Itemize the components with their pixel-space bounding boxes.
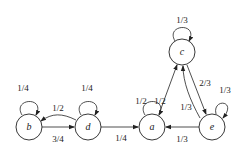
edge-d-b (41, 115, 76, 121)
edge-d-d (79, 101, 97, 115)
edge-b-b (20, 101, 38, 115)
label-d-b: 1/2 (52, 103, 64, 113)
node-d: d (75, 114, 101, 140)
label-d-a: 1/4 (115, 133, 127, 143)
label-a-c: 1/2 (154, 96, 166, 106)
label-b-d: 3/4 (52, 134, 64, 144)
node-e: e (199, 114, 225, 140)
edge-a-c (159, 65, 177, 114)
label-e-a: 1/3 (176, 134, 188, 144)
svg-text:e: e (210, 121, 215, 132)
label-b-b: 1/4 (17, 83, 29, 93)
label-c-e: 2/3 (199, 78, 211, 88)
label-e-c: 1/3 (180, 102, 192, 112)
svg-text:c: c (180, 46, 185, 57)
label-d-d: 1/4 (81, 83, 93, 93)
node-b: b (16, 114, 42, 140)
state-diagram: b d a c e 1/4 1/4 1/2 3/4 1/4 1/2 1/2 1/… (0, 0, 241, 149)
label-c-c: 1/3 (176, 15, 188, 25)
label-a-a: 1/2 (135, 96, 147, 106)
label-e-e: 1/3 (219, 85, 231, 95)
svg-text:a: a (150, 121, 155, 132)
node-c: c (169, 39, 195, 65)
node-a: a (139, 114, 165, 140)
svg-text:b: b (27, 121, 32, 132)
